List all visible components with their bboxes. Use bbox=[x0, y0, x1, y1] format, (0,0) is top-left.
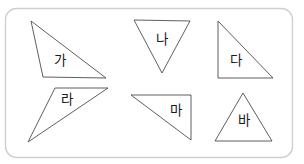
triangle-na-label: 나 bbox=[156, 31, 168, 47]
triangle-ra-label: 라 bbox=[61, 91, 74, 107]
triangle-ga-label: 가 bbox=[54, 52, 66, 68]
triangle-ba-label: 바 bbox=[238, 112, 251, 128]
triangle-ma-label: 마 bbox=[170, 102, 183, 118]
triangle-da-label: 다 bbox=[230, 52, 243, 68]
triangles-figure: 가 나 다 라 마 바 bbox=[0, 0, 304, 164]
worksheet-canvas: 가 나 다 라 마 바 bbox=[0, 0, 304, 164]
